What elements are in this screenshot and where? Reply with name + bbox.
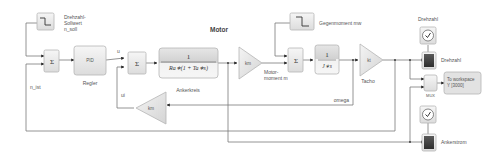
- pid-block[interactable]: PID: [74, 46, 106, 75]
- sum-icon: Σ: [294, 57, 298, 65]
- pid-label: Regler: [83, 80, 98, 86]
- clock-speed-block[interactable]: [420, 27, 436, 44]
- gain-tacho-block[interactable]: kt: [360, 44, 383, 76]
- scope-current-block[interactable]: [422, 134, 436, 151]
- signal-ui-label: ui: [121, 92, 125, 98]
- armature-tf-block[interactable]: 1 Ra∗(1 + Ta∗s): [159, 48, 218, 78]
- branch-point: [409, 141, 411, 143]
- scope-speed-label: Drehzahl: [441, 57, 461, 63]
- signal-n-ist-label: n_ist: [30, 84, 41, 90]
- int-numerator: 1: [325, 51, 329, 59]
- branch-point: [394, 59, 396, 61]
- scope-current-label: Ankerstrom: [441, 139, 467, 145]
- scope-speed-block[interactable]: [422, 52, 436, 69]
- clock-current-block[interactable]: [420, 106, 436, 123]
- branch-point: [352, 59, 354, 61]
- int-denominator: J∗s: [322, 63, 332, 69]
- signal-u-label: u: [117, 48, 120, 54]
- mux-block[interactable]: [424, 75, 437, 91]
- scope-icon: [424, 136, 434, 149]
- diagram-title: Motor: [210, 26, 229, 33]
- tf-numerator: 1: [187, 53, 191, 61]
- gain-emf-block[interactable]: km: [136, 92, 166, 124]
- tacho-label: Tacho: [361, 78, 375, 84]
- mux-label: MUX: [426, 93, 435, 98]
- branch-point: [409, 59, 411, 61]
- pid-text: PID: [86, 58, 94, 63]
- armature-label: Ankerkreis: [176, 87, 200, 93]
- sum-icon: Σ: [135, 60, 139, 68]
- gain-emf-text: km: [148, 106, 154, 111]
- sum1-block[interactable]: Σ: [44, 50, 59, 72]
- signal-omega-label: omega: [334, 97, 350, 103]
- step-setpoint-label: Drehzahl- Sollwert n_soll: [64, 14, 87, 32]
- clock-speed-label: Drehzahl: [418, 16, 438, 22]
- gain-km-block[interactable]: km: [239, 47, 262, 79]
- sum-icon: Σ: [50, 58, 54, 66]
- sum2-block[interactable]: Σ: [128, 52, 146, 74]
- tf-denominator: Ra∗(1 + Ta∗s): [168, 65, 208, 72]
- scope-icon: [424, 54, 434, 67]
- branch-point: [227, 62, 229, 64]
- step-load-block[interactable]: [290, 13, 314, 30]
- step-load-label: Gegenmoment mw: [319, 20, 362, 26]
- integrator-block[interactable]: 1 J∗s: [315, 45, 339, 74]
- gain-km-text: km: [245, 61, 251, 66]
- torque-label: Motor- moment m: [264, 69, 288, 81]
- to-workspace-block[interactable]: To workspace Y [3000]: [444, 72, 481, 94]
- wire-u: [106, 58, 124, 60]
- block-diagram: Motor: [0, 0, 497, 155]
- step-setpoint-block[interactable]: [37, 13, 54, 30]
- sum3-block[interactable]: Σ: [288, 48, 303, 72]
